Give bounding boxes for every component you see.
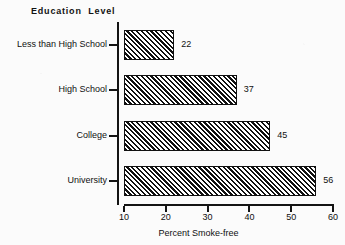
bar <box>124 166 316 196</box>
y-axis-tick <box>109 44 117 46</box>
y-axis-tick <box>109 135 117 137</box>
bar <box>124 121 270 151</box>
bar-value-label: 56 <box>323 175 333 185</box>
bar-value-label: 45 <box>277 130 287 140</box>
x-axis-tick-label: 40 <box>237 212 261 222</box>
chart-title: Education Level <box>31 6 115 16</box>
bar-value-label: 22 <box>181 39 191 49</box>
x-axis-title: Percent Smoke-free <box>0 228 345 238</box>
y-axis-tick-label: College <box>76 130 107 140</box>
x-axis-tick-label: 50 <box>279 212 303 222</box>
x-axis-tick-label: 30 <box>196 212 220 222</box>
bar <box>124 75 237 105</box>
y-axis-tick <box>109 89 117 91</box>
y-axis-line <box>117 22 119 205</box>
bar-chart-figure: Education Level 22374556 Less than High … <box>0 0 345 245</box>
x-axis-tick-label: 10 <box>112 212 136 222</box>
x-axis-tick-label: 20 <box>154 212 178 222</box>
y-axis-tick-label: University <box>67 175 107 185</box>
y-axis-tick-label: Less than High School <box>17 39 107 49</box>
x-axis-tick-label: 60 <box>321 212 345 222</box>
y-axis-tick-label: High School <box>58 84 107 94</box>
bar-value-label: 37 <box>244 84 254 94</box>
bar <box>124 30 174 60</box>
x-axis-line <box>124 204 334 206</box>
y-axis-tick <box>109 180 117 182</box>
